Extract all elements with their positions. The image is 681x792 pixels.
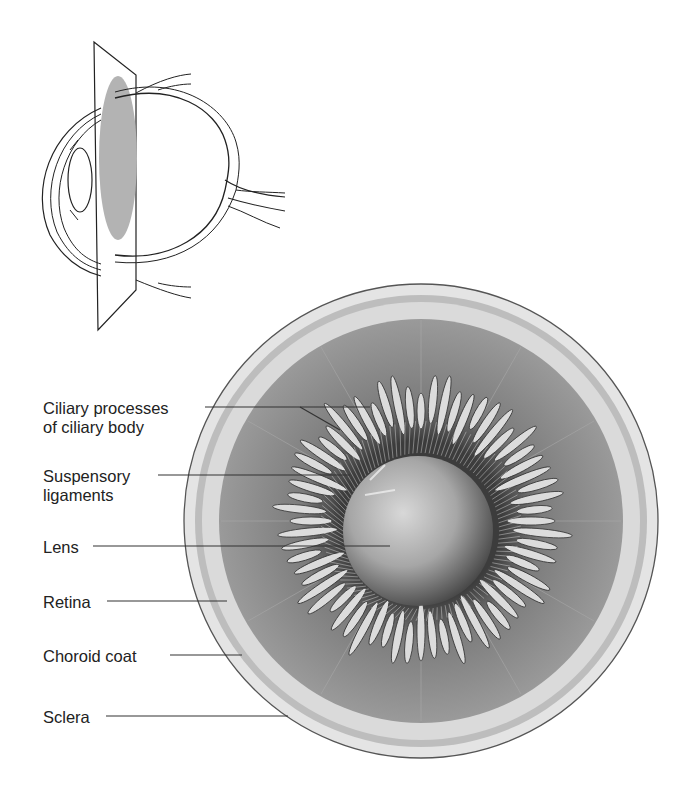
eye-diagram: Ciliary processes of ciliary body Suspen… xyxy=(0,0,681,792)
leader-lines xyxy=(0,0,681,792)
